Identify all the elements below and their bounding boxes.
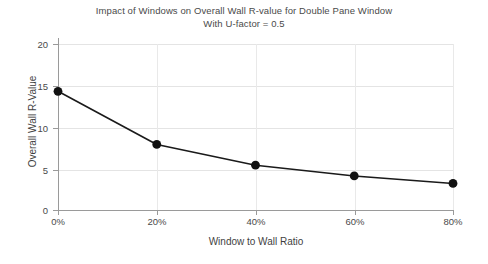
chart-container: Impact of Windows on Overall Wall R-valu… [0, 0, 488, 264]
series-line [58, 91, 453, 183]
data-point [251, 161, 260, 170]
data-point [350, 172, 359, 181]
data-point [449, 179, 458, 188]
data-point [54, 87, 63, 96]
data-series-layer [0, 0, 488, 264]
series-markers [54, 87, 458, 188]
data-point [152, 140, 161, 149]
